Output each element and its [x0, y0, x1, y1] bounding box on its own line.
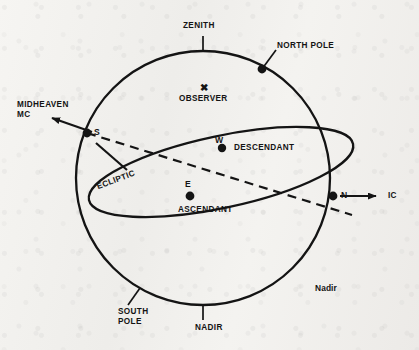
observer-label: OBSERVER — [179, 94, 228, 104]
point-e-label: E — [185, 179, 191, 189]
ic-label: IC — [388, 191, 397, 201]
ecliptic-leader-line — [96, 143, 127, 170]
south-pole-label: SOUTH POLE — [118, 307, 148, 327]
nadir-label: NADIR — [195, 323, 223, 333]
point-north-pole — [258, 65, 267, 74]
point-w-label: W — [215, 135, 223, 145]
diagram-canvas — [0, 0, 419, 350]
north-pole-label: NORTH POLE — [277, 41, 334, 51]
point-north — [329, 192, 338, 201]
cross-marker-icon: ✖ — [200, 82, 208, 94]
point-east-ascendant — [186, 192, 195, 201]
descendant-label: DESCENDANT — [234, 143, 294, 153]
zenith-label: ZENITH — [183, 21, 215, 31]
ascendant-label: ASCENDANT — [178, 205, 233, 215]
nadir-caption-label: Nadir — [315, 283, 337, 293]
point-n-label: N — [341, 190, 347, 200]
celestial-sphere-diagram: ZENITH NORTH POLE ✖ OBSERVER MIDHEAVEN M… — [0, 0, 419, 350]
south-pole-leader-line — [128, 288, 140, 305]
point-s-label: S — [94, 127, 100, 137]
point-south — [83, 129, 92, 138]
midheaven-label: MIDHEAVEN MC — [17, 100, 69, 120]
